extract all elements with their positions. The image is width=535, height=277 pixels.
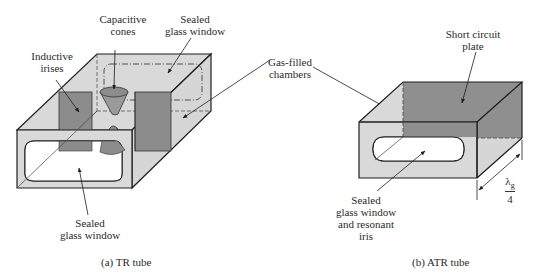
label-capacitive-cones: Capacitive cones xyxy=(93,13,153,37)
atr-tube xyxy=(359,52,522,200)
label-sealed-glass-window-bottom: Sealed glass window xyxy=(55,217,125,241)
fraction-bar xyxy=(505,191,515,192)
label-sealed-glass-window-top: Sealed glass window xyxy=(160,13,230,37)
label-line: Gas-filled xyxy=(260,56,320,68)
label-line: Sealed xyxy=(55,217,125,229)
label-gas-filled-chambers: Gas-filled chambers xyxy=(260,56,320,80)
label-short-circuit-plate: Short circuit plate xyxy=(438,28,508,52)
denominator: 4 xyxy=(507,193,513,205)
caption-atr-tube: (b) ATR tube xyxy=(412,256,469,268)
label-line: glass window xyxy=(334,206,398,218)
label-line: chambers xyxy=(260,68,320,80)
label-line: and resonant xyxy=(334,218,398,230)
label-line: Capacitive xyxy=(93,13,153,25)
label-line: glass window xyxy=(160,25,230,37)
label-line: iris xyxy=(334,230,398,242)
label-line: glass window xyxy=(55,229,125,241)
atr-resonant-iris-window xyxy=(373,137,464,161)
lambda-symbol: λg xyxy=(505,175,514,187)
label-inductive-irises: Inductive irises xyxy=(24,50,80,74)
label-line: Sealed xyxy=(334,194,398,206)
label-sealed-glass-window-resonant-iris: Sealed glass window and resonant iris xyxy=(334,194,398,242)
label-line: plate xyxy=(438,40,508,52)
label-line: irises xyxy=(24,62,80,74)
caption-tr-tube: (a) TR tube xyxy=(101,256,152,268)
tr-inductive-iris-right xyxy=(135,92,171,151)
dimension-lambda-g-over-4: λg 4 xyxy=(500,175,520,205)
label-line: Short circuit xyxy=(438,28,508,40)
label-line: Sealed xyxy=(160,13,230,25)
label-line: cones xyxy=(93,25,153,37)
label-line: Inductive xyxy=(24,50,80,62)
